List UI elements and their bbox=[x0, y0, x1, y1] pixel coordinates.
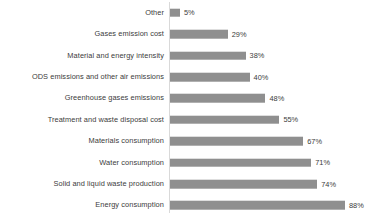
bar-row: Water consumption71% bbox=[0, 152, 373, 174]
category-label: Treatment and waste disposal cost bbox=[48, 116, 164, 123]
bar bbox=[170, 9, 180, 18]
bar-row: Energy consumption88% bbox=[0, 195, 373, 217]
bar bbox=[170, 137, 303, 146]
bar bbox=[170, 180, 317, 189]
bar bbox=[170, 116, 279, 125]
bar bbox=[170, 158, 311, 167]
bar-and-value: 55% bbox=[170, 116, 298, 125]
bar bbox=[170, 73, 250, 82]
bar-value-label: 67% bbox=[307, 138, 322, 145]
bar-and-value: 67% bbox=[170, 137, 322, 146]
bar-row: Material and energy intensity38% bbox=[0, 45, 373, 67]
bar-value-label: 71% bbox=[315, 159, 330, 166]
bar-row: ODS emissions and other air emissions40% bbox=[0, 66, 373, 88]
bar-and-value: 48% bbox=[170, 94, 284, 103]
bar-value-label: 40% bbox=[254, 73, 269, 80]
category-label: Materials consumption bbox=[89, 138, 165, 145]
bar-and-value: 88% bbox=[170, 201, 364, 210]
category-label: ODS emissions and other air emissions bbox=[32, 73, 164, 80]
bar-value-label: 74% bbox=[321, 180, 336, 187]
bar-value-label: 88% bbox=[349, 202, 364, 209]
bar-value-label: 5% bbox=[184, 9, 195, 16]
bar-and-value: 5% bbox=[170, 9, 195, 18]
bar-and-value: 40% bbox=[170, 73, 268, 82]
bar bbox=[170, 201, 345, 210]
bar-value-label: 29% bbox=[232, 31, 247, 38]
bar-value-label: 38% bbox=[250, 52, 265, 59]
bar-row: Solid and liquid waste production74% bbox=[0, 173, 373, 195]
bar-value-label: 55% bbox=[283, 116, 298, 123]
bar-row: Gases emission cost29% bbox=[0, 23, 373, 45]
category-label: Greenhouse gases emissions bbox=[65, 95, 164, 102]
bar-value-label: 48% bbox=[269, 95, 284, 102]
bar-and-value: 38% bbox=[170, 51, 264, 60]
bar bbox=[170, 94, 265, 103]
bar-and-value: 74% bbox=[170, 180, 336, 189]
category-label: Energy consumption bbox=[95, 202, 164, 209]
bar-row: Materials consumption67% bbox=[0, 130, 373, 152]
category-label: Gases emission cost bbox=[94, 31, 164, 38]
bar bbox=[170, 30, 228, 39]
bar-row: Treatment and waste disposal cost55% bbox=[0, 109, 373, 131]
category-label: Other bbox=[145, 9, 164, 16]
bar-chart: Other5%Gases emission cost29%Material an… bbox=[0, 0, 373, 217]
bar-row-group: Other5%Gases emission cost29%Material an… bbox=[0, 0, 373, 217]
bar-row: Greenhouse gases emissions48% bbox=[0, 88, 373, 110]
category-label: Material and energy intensity bbox=[67, 52, 164, 59]
category-label: Water consumption bbox=[99, 159, 164, 166]
bar-and-value: 71% bbox=[170, 158, 330, 167]
bar-row: Other5% bbox=[0, 2, 373, 24]
category-label: Solid and liquid waste production bbox=[54, 180, 165, 187]
bar-and-value: 29% bbox=[170, 30, 246, 39]
bar bbox=[170, 51, 246, 60]
plot-area: Other5%Gases emission cost29%Material an… bbox=[0, 0, 373, 217]
